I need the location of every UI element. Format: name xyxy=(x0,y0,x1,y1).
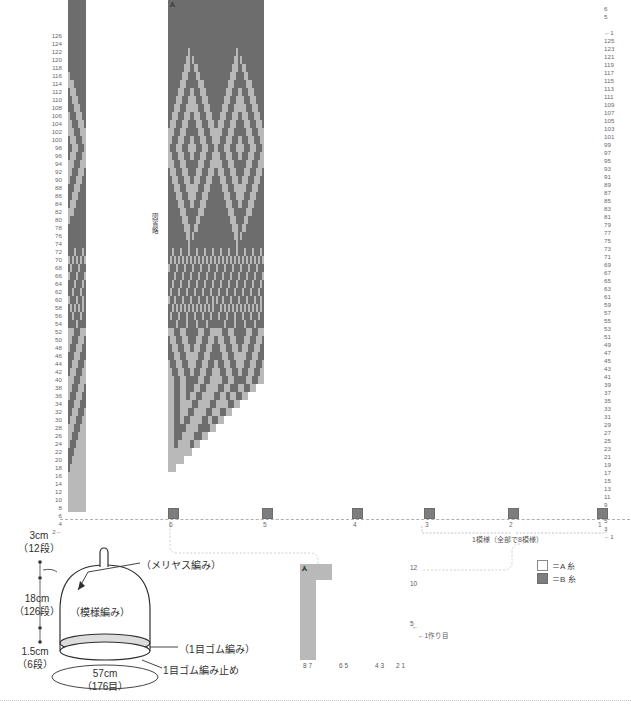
chart-cell xyxy=(84,440,86,448)
chart-row xyxy=(68,280,86,288)
row-number: 114 xyxy=(38,80,62,88)
width-stitches: （176目） xyxy=(70,681,140,693)
chart-row xyxy=(68,24,86,32)
column-marker-label: 4 xyxy=(353,521,357,528)
chart-cell xyxy=(84,160,86,168)
chart-cell: 人 xyxy=(230,408,232,416)
chart-row xyxy=(168,248,264,256)
chart-cell xyxy=(84,448,86,456)
row-number: 113 xyxy=(604,85,630,93)
chart-row xyxy=(68,344,86,352)
row-number: 37 xyxy=(604,389,630,397)
row-number: 73 xyxy=(604,245,630,253)
row-number: 125 xyxy=(604,37,630,45)
row-number: 27 xyxy=(604,429,630,437)
row-number: 88 xyxy=(38,184,62,192)
row-number: 74 xyxy=(38,240,62,248)
column-marker-label: 2 xyxy=(509,521,513,528)
row-number: 68 xyxy=(38,264,62,272)
row-number: 78 xyxy=(38,224,62,232)
chart-row xyxy=(68,432,86,440)
row-number: 30 xyxy=(38,416,62,424)
right-top-row-numbers: 65 xyxy=(604,5,628,21)
chart-row xyxy=(68,272,86,280)
chart-row: 人人人人 xyxy=(168,392,264,400)
chart-cell xyxy=(262,200,264,208)
chart-cell xyxy=(262,112,264,120)
chart-cell xyxy=(262,288,264,296)
chart-row xyxy=(168,272,264,280)
chart-cell xyxy=(84,136,86,144)
chart-cell xyxy=(262,240,264,248)
chart-cell xyxy=(262,304,264,312)
chart-cell: 人 xyxy=(206,432,208,440)
row-number: 117 xyxy=(604,69,630,77)
chart-row xyxy=(168,336,264,344)
callout-rib: （1目ゴム編み） xyxy=(179,641,255,656)
chart-row xyxy=(168,240,264,248)
row-number: 52 xyxy=(38,328,62,336)
chart-cell xyxy=(84,264,86,272)
chart-row xyxy=(68,224,86,232)
chart-cell xyxy=(84,208,86,216)
chart-cell xyxy=(262,184,264,192)
chart-row xyxy=(168,160,264,168)
chart-row xyxy=(68,472,86,480)
chart-row xyxy=(68,480,86,488)
row-number: 82 xyxy=(38,208,62,216)
row-number: 99 xyxy=(604,141,630,149)
column-marker-square xyxy=(424,508,435,519)
row-number: 75 xyxy=(604,237,630,245)
chart-cell xyxy=(262,352,264,360)
chart-row xyxy=(168,264,264,272)
row-number: 42 xyxy=(38,368,62,376)
chart-cell xyxy=(84,96,86,104)
chart-row xyxy=(168,280,264,288)
chart-row xyxy=(68,88,86,96)
chart-cell xyxy=(262,152,264,160)
dim-top-cm: 3cm xyxy=(8,530,70,542)
row-number: 100 xyxy=(38,136,62,144)
row-number: 108 xyxy=(38,104,62,112)
chart-row xyxy=(168,480,264,488)
chart-row xyxy=(68,16,86,24)
chart-cell xyxy=(84,504,86,512)
chart-row xyxy=(68,48,86,56)
row-number: 110 xyxy=(38,96,62,104)
row-number: 34 xyxy=(38,400,62,408)
chart-cell xyxy=(84,200,86,208)
row-number: 118 xyxy=(38,64,62,72)
row-number: 53 xyxy=(604,325,630,333)
row-number: 22 xyxy=(38,448,62,456)
chart-cell xyxy=(262,208,264,216)
row-number: 86 xyxy=(38,192,62,200)
chart-row: 人人人人 xyxy=(168,464,264,472)
chart-cell xyxy=(84,376,86,384)
row-number: 67 xyxy=(604,269,630,277)
chart-cell xyxy=(262,0,264,8)
row-number: 60 xyxy=(38,296,62,304)
row-number: 90 xyxy=(38,176,62,184)
dim-bottom-cm: 1.5cm xyxy=(4,646,66,658)
row-number: 66 xyxy=(38,272,62,280)
row-number: 81 xyxy=(604,213,630,221)
row-number: 41 xyxy=(604,373,630,381)
row-number: 116 xyxy=(38,72,62,80)
chart-row xyxy=(68,104,86,112)
chart-cell xyxy=(84,304,86,312)
chart-row xyxy=(168,360,264,368)
chart-cell xyxy=(262,216,264,224)
chart-cell xyxy=(84,480,86,488)
row-number: 98 xyxy=(38,144,62,152)
row-number: 72 xyxy=(38,248,62,256)
row-number: 21 xyxy=(604,453,630,461)
chart-cell xyxy=(262,144,264,152)
chart-row xyxy=(168,344,264,352)
chart-cell xyxy=(84,144,86,152)
chart-cell xyxy=(84,384,86,392)
chart-cell xyxy=(84,488,86,496)
chart-row xyxy=(168,40,264,48)
chart-cell xyxy=(262,336,264,344)
chart-row xyxy=(68,32,86,40)
row-number: 97 xyxy=(604,149,630,157)
